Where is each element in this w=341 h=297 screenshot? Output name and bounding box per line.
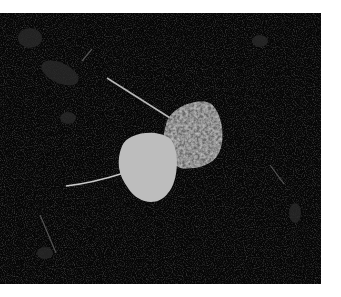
photo-scene bbox=[0, 13, 321, 284]
photograph bbox=[0, 13, 321, 284]
